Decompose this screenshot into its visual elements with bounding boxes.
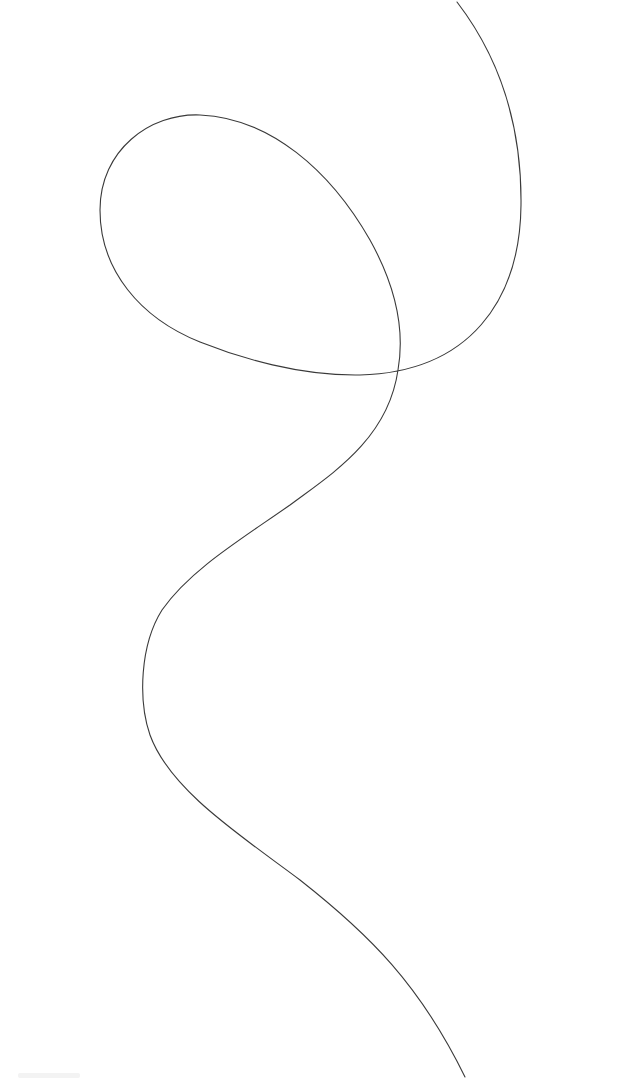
faint-mark — [18, 1073, 80, 1078]
curve-drawing — [0, 0, 632, 1080]
freehand-curve — [100, 2, 521, 1077]
drawing-canvas — [0, 0, 632, 1080]
